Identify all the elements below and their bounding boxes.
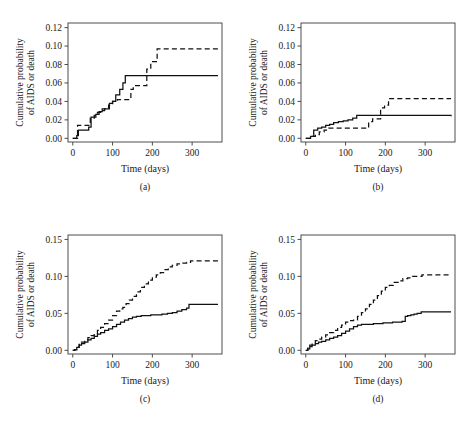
x-tick-label: 100 [105, 148, 120, 158]
panel-a: 0.000.020.040.060.080.100.120100200300Ti… [0, 0, 233, 215]
y-tick-label: 0.00 [45, 134, 62, 144]
y-tick-label: 0.10 [45, 41, 62, 51]
y-tick-label: 0.15 [45, 235, 62, 245]
series-solid [73, 76, 218, 139]
y-tick-label: 0.04 [45, 97, 62, 107]
y-tick-label: 0.10 [278, 272, 295, 282]
y-axis-title-line1: Cumulative probability [15, 250, 25, 339]
y-tick-label: 0.12 [45, 23, 62, 33]
series-dashed [306, 275, 451, 350]
x-tick-label: 100 [338, 148, 353, 158]
x-axis-title: Time (days) [354, 163, 402, 175]
y-axis-title: Cumulative probabilityof AIDS or death [248, 38, 269, 127]
panel-c: 0.000.050.100.150100200300Time (days)Cum… [0, 212, 233, 427]
y-tick-label: 0.10 [278, 41, 295, 51]
series-solid [73, 304, 218, 350]
y-axis-title-line2: of AIDS or death [26, 50, 36, 115]
y-axis-title-line2: of AIDS or death [26, 262, 36, 327]
x-tick-label: 300 [185, 360, 200, 370]
x-tick-label: 100 [338, 360, 353, 370]
x-tick-label: 0 [70, 360, 75, 370]
x-tick-label: 0 [303, 148, 308, 158]
y-tick-label: 0.02 [278, 115, 295, 125]
y-axis-title-line1: Cumulative probability [248, 38, 258, 127]
panel-letter: (d) [372, 394, 383, 405]
y-tick-label: 0.00 [278, 346, 295, 356]
y-tick-label: 0.04 [278, 97, 295, 107]
x-axis-title: Time (days) [121, 163, 169, 175]
y-axis-title: Cumulative probabilityof AIDS or death [248, 250, 269, 339]
y-tick-label: 0.12 [278, 23, 295, 33]
y-tick-label: 0.08 [278, 60, 295, 70]
x-tick-label: 0 [70, 148, 75, 158]
y-tick-label: 0.08 [45, 60, 62, 70]
plot-frame [301, 235, 455, 354]
series-dashed [306, 99, 451, 139]
x-tick-label: 100 [105, 360, 120, 370]
panel-d: 0.000.050.100.150100200300Time (days)Cum… [233, 212, 466, 427]
figure-container: 0.000.020.040.060.080.100.120100200300Ti… [0, 0, 466, 430]
panel-letter: (b) [372, 182, 383, 193]
x-tick-label: 200 [145, 148, 160, 158]
panel-plot-b: 0.000.020.040.060.080.100.120100200300Ti… [233, 0, 466, 215]
x-axis-title: Time (days) [121, 375, 169, 387]
x-axis-title: Time (days) [354, 375, 402, 387]
y-axis-title-line2: of AIDS or death [259, 50, 269, 115]
panel-plot-d: 0.000.050.100.150100200300Time (days)Cum… [233, 212, 466, 427]
panel-letter: (c) [140, 394, 151, 405]
y-tick-label: 0.06 [278, 78, 295, 88]
y-tick-label: 0.00 [45, 346, 62, 356]
y-axis-title: Cumulative probabilityof AIDS or death [15, 38, 36, 127]
y-tick-label: 0.05 [45, 309, 62, 319]
x-tick-label: 200 [145, 360, 160, 370]
x-tick-label: 200 [378, 360, 393, 370]
x-tick-label: 0 [303, 360, 308, 370]
x-tick-label: 300 [185, 148, 200, 158]
panel-plot-c: 0.000.050.100.150100200300Time (days)Cum… [0, 212, 233, 427]
plot-frame [301, 23, 455, 142]
panel-plot-a: 0.000.020.040.060.080.100.120100200300Ti… [0, 0, 233, 215]
plot-frame [68, 235, 222, 354]
y-tick-label: 0.10 [45, 272, 62, 282]
series-dashed [73, 49, 218, 138]
panel-letter: (a) [140, 182, 151, 193]
x-tick-label: 300 [418, 148, 433, 158]
y-tick-label: 0.15 [278, 235, 295, 245]
y-tick-label: 0.05 [278, 309, 295, 319]
y-axis-title-line1: Cumulative probability [248, 250, 258, 339]
x-tick-label: 200 [378, 148, 393, 158]
panel-b: 0.000.020.040.060.080.100.120100200300Ti… [233, 0, 466, 215]
y-axis-title-line1: Cumulative probability [15, 38, 25, 127]
y-axis-title: Cumulative probabilityof AIDS or death [15, 250, 36, 339]
series-solid [306, 312, 451, 350]
x-tick-label: 300 [418, 360, 433, 370]
y-tick-label: 0.00 [278, 134, 295, 144]
y-tick-label: 0.06 [45, 78, 62, 88]
y-axis-title-line2: of AIDS or death [259, 262, 269, 327]
y-tick-label: 0.02 [45, 115, 62, 125]
